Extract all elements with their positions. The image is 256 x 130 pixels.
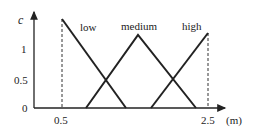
label-medium: medium [121,20,157,32]
x-tick-0.5: 0.5 [54,114,68,126]
x-tick-2.5: 2.5 [201,114,215,126]
y-tick-0.5: 0.5 [14,74,28,86]
label-low: low [80,21,97,33]
membership-function-chart: c 1 0.5 0 0.5 2.5 (m) low medium high [0,0,256,130]
y-axis-label: c [18,13,24,27]
x-axis-unit: (m) [226,114,242,127]
y-tick-1: 1 [21,43,27,55]
y-tick-0: 0 [22,102,28,114]
label-high: high [182,20,202,32]
series-high [151,33,208,108]
